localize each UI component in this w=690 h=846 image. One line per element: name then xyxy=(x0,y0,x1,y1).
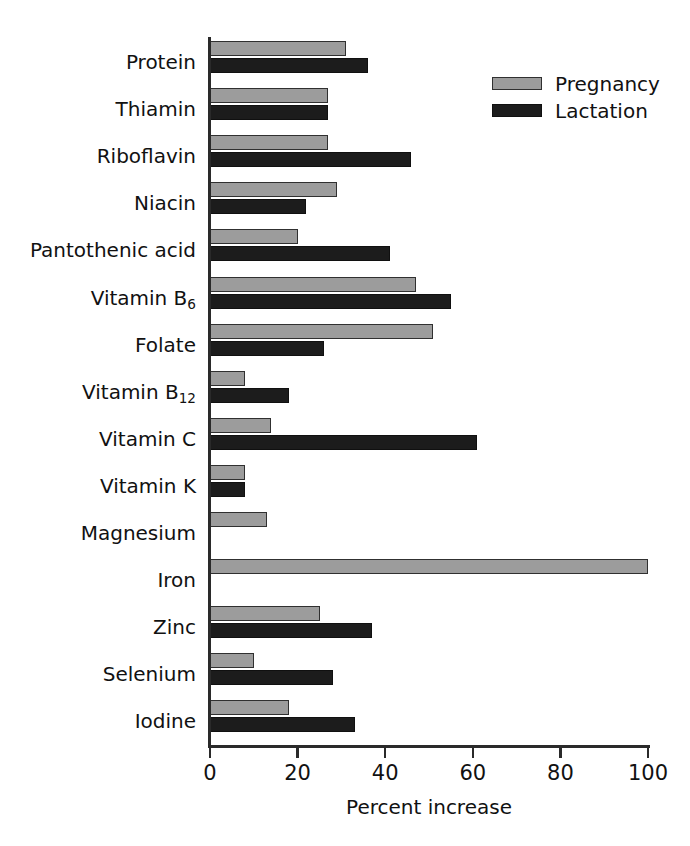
bar-pregnancy xyxy=(210,559,648,574)
x-tick-mark xyxy=(296,747,299,758)
bar-group xyxy=(210,133,648,180)
category-label: Iron xyxy=(0,564,196,597)
chart-row: Zinc xyxy=(0,604,690,651)
x-tick-label: 80 xyxy=(520,760,600,786)
category-label: Iodine xyxy=(0,705,196,738)
bar-lactation xyxy=(210,199,306,214)
chart-row: Selenium xyxy=(0,651,690,698)
x-tick-mark xyxy=(384,747,387,758)
y-axis-line xyxy=(208,37,211,745)
bar-pregnancy xyxy=(210,606,320,621)
bar-lactation xyxy=(210,341,324,356)
bar-group xyxy=(210,322,648,369)
x-axis-title: Percent increase xyxy=(210,795,648,819)
bar-group xyxy=(210,557,648,604)
x-tick-label: 0 xyxy=(170,760,250,786)
bar-group xyxy=(210,463,648,510)
category-label: Vitamin B6 xyxy=(0,282,196,317)
category-label: Vitamin K xyxy=(0,470,196,503)
legend-item-pregnancy: Pregnancy xyxy=(492,70,682,97)
category-label-subscript: 6 xyxy=(187,296,196,312)
category-label: Riboflavin xyxy=(0,140,196,173)
category-label: Selenium xyxy=(0,658,196,691)
lactation-swatch-icon xyxy=(492,104,542,117)
bar-group xyxy=(210,369,648,416)
bar-lactation xyxy=(210,246,390,261)
bar-lactation xyxy=(210,152,411,167)
bar-group xyxy=(210,510,648,557)
legend-label-pregnancy: Pregnancy xyxy=(555,72,660,96)
x-tick-mark xyxy=(472,747,475,758)
bar-pregnancy xyxy=(210,135,328,150)
category-label-subscript: 12 xyxy=(179,390,196,406)
x-axis-line xyxy=(208,745,650,748)
x-tick-label: 40 xyxy=(345,760,425,786)
category-label: Folate xyxy=(0,329,196,362)
grouped-bar-chart: ProteinThiaminRiboflavinNiacinPantotheni… xyxy=(0,0,690,846)
category-label: Vitamin B12 xyxy=(0,376,196,411)
bar-group xyxy=(210,651,648,698)
bar-pregnancy xyxy=(210,182,337,197)
bar-lactation xyxy=(210,58,368,73)
legend: Pregnancy Lactation xyxy=(492,70,682,124)
bar-pregnancy xyxy=(210,418,271,433)
bar-group xyxy=(210,698,648,745)
bar-pregnancy xyxy=(210,324,433,339)
bar-group xyxy=(210,180,648,227)
category-label: Pantothenic acid xyxy=(0,234,196,267)
legend-item-lactation: Lactation xyxy=(492,97,682,124)
chart-row: Iodine xyxy=(0,698,690,745)
category-label: Zinc xyxy=(0,611,196,644)
category-label: Thiamin xyxy=(0,93,196,126)
x-tick-label: 100 xyxy=(608,760,688,786)
chart-row: Pantothenic acid xyxy=(0,227,690,274)
bar-pregnancy xyxy=(210,371,245,386)
x-tick-mark xyxy=(209,747,212,758)
x-tick-mark xyxy=(647,747,650,758)
bar-pregnancy xyxy=(210,700,289,715)
chart-row: Folate xyxy=(0,322,690,369)
bar-pregnancy xyxy=(210,229,298,244)
bar-lactation xyxy=(210,670,333,685)
category-label: Niacin xyxy=(0,187,196,220)
chart-row: Niacin xyxy=(0,180,690,227)
bar-pregnancy xyxy=(210,88,328,103)
bar-group xyxy=(210,416,648,463)
bar-group xyxy=(210,275,648,322)
chart-row: Vitamin C xyxy=(0,416,690,463)
pregnancy-swatch-icon xyxy=(492,77,542,90)
legend-label-lactation: Lactation xyxy=(555,99,648,123)
chart-row: Vitamin B12 xyxy=(0,369,690,416)
x-tick-label: 20 xyxy=(258,760,338,786)
x-tick-label: 60 xyxy=(433,760,513,786)
category-label: Protein xyxy=(0,46,196,79)
bar-pregnancy xyxy=(210,465,245,480)
bar-group xyxy=(210,227,648,274)
bar-pregnancy xyxy=(210,277,416,292)
chart-row: Riboflavin xyxy=(0,133,690,180)
bar-lactation xyxy=(210,294,451,309)
chart-row: Vitamin B6 xyxy=(0,275,690,322)
bar-group xyxy=(210,604,648,651)
bar-lactation xyxy=(210,105,328,120)
category-label: Magnesium xyxy=(0,517,196,550)
bar-pregnancy xyxy=(210,653,254,668)
bar-lactation xyxy=(210,435,477,450)
bar-pregnancy xyxy=(210,512,267,527)
bar-lactation xyxy=(210,717,355,732)
x-tick-mark xyxy=(559,747,562,758)
bar-lactation xyxy=(210,482,245,497)
chart-row: Magnesium xyxy=(0,510,690,557)
bar-lactation xyxy=(210,623,372,638)
chart-row: Vitamin K xyxy=(0,463,690,510)
bar-lactation xyxy=(210,388,289,403)
chart-row: Iron xyxy=(0,557,690,604)
bar-pregnancy xyxy=(210,41,346,56)
category-label: Vitamin C xyxy=(0,423,196,456)
